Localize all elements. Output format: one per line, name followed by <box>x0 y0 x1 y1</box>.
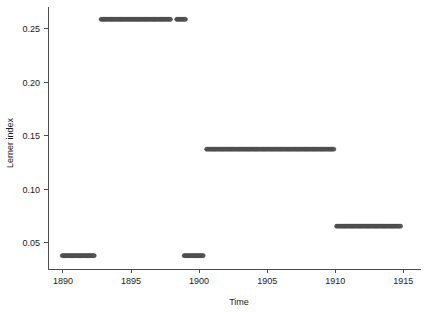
x-tick-label: 1900 <box>189 276 209 286</box>
y-tick-label: 0.15 <box>22 131 40 141</box>
x-axis: 189018951900190519101915 <box>48 269 421 286</box>
y-tick-label: 0.25 <box>22 24 40 34</box>
data-point <box>332 147 336 151</box>
data-point <box>183 17 187 21</box>
y-axis: 0.050.100.150.200.25 <box>22 7 48 269</box>
y-tick-label: 0.10 <box>22 185 40 195</box>
data-point <box>168 17 172 21</box>
y-tick-label: 0.05 <box>22 238 40 248</box>
x-tick-label: 1895 <box>121 276 141 286</box>
lerner-index-scatter-figure: 0.050.100.150.200.25 1890189519001905191… <box>0 0 430 312</box>
x-tick-label: 1905 <box>257 276 277 286</box>
data-point <box>201 254 205 258</box>
y-tick-label: 0.20 <box>22 78 40 88</box>
y-axis-title: Lerner index <box>5 117 15 168</box>
data-markers-layer <box>60 17 402 258</box>
x-tick-label: 1890 <box>53 276 73 286</box>
plot-canvas: 0.050.100.150.200.25 1890189519001905191… <box>0 0 430 312</box>
data-point <box>92 254 96 258</box>
x-tick-label: 1910 <box>325 276 345 286</box>
x-tick-label: 1915 <box>393 276 413 286</box>
data-point <box>398 224 402 228</box>
x-axis-title: Time <box>229 297 249 307</box>
